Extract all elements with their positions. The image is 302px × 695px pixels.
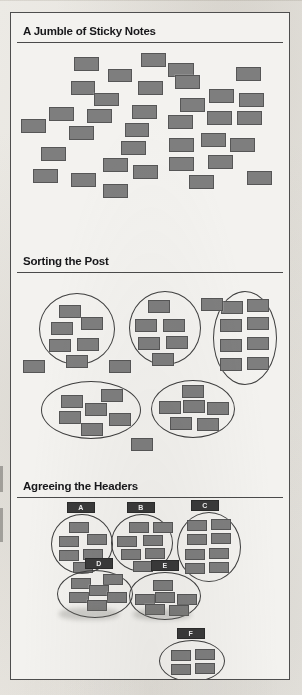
sticky-note[interactable]	[195, 663, 215, 674]
sticky-note[interactable]	[247, 337, 269, 350]
sticky-note[interactable]	[41, 147, 66, 161]
sticky-note[interactable]	[49, 339, 71, 352]
sticky-note[interactable]	[180, 98, 205, 112]
sticky-note[interactable]	[183, 400, 205, 413]
sticky-note[interactable]	[220, 339, 242, 352]
sticky-note[interactable]	[141, 53, 166, 67]
sticky-note[interactable]	[153, 522, 173, 533]
sticky-note[interactable]	[135, 319, 157, 332]
sticky-note[interactable]	[71, 81, 95, 95]
sticky-note-unsorted[interactable]	[23, 360, 45, 373]
sticky-note[interactable]	[121, 549, 141, 560]
sticky-note[interactable]	[74, 57, 99, 71]
header-tag-a[interactable]: A	[67, 502, 95, 513]
sticky-note[interactable]	[185, 549, 205, 560]
sticky-note[interactable]	[59, 305, 81, 318]
sticky-note[interactable]	[166, 336, 188, 349]
header-tag-c[interactable]: C	[191, 500, 219, 511]
sticky-note[interactable]	[33, 169, 58, 183]
sticky-note[interactable]	[169, 138, 194, 152]
sticky-note[interactable]	[145, 604, 165, 615]
sticky-note[interactable]	[175, 75, 200, 89]
sticky-note[interactable]	[132, 105, 157, 119]
sticky-note[interactable]	[169, 605, 189, 616]
sticky-note[interactable]	[169, 157, 194, 171]
sticky-note[interactable]	[121, 141, 146, 155]
sticky-note[interactable]	[89, 585, 109, 596]
sticky-note[interactable]	[59, 411, 81, 424]
sticky-note[interactable]	[117, 536, 137, 547]
sticky-note[interactable]	[177, 594, 197, 605]
sticky-note[interactable]	[197, 418, 219, 431]
sticky-note[interactable]	[239, 93, 264, 107]
sticky-note[interactable]	[152, 353, 174, 366]
sticky-note[interactable]	[71, 173, 96, 187]
sticky-note[interactable]	[87, 600, 107, 611]
header-tag-e[interactable]: E	[151, 560, 179, 571]
sticky-note[interactable]	[69, 126, 94, 140]
sticky-note[interactable]	[182, 385, 204, 398]
sticky-note[interactable]	[155, 592, 175, 603]
sticky-note[interactable]	[49, 107, 74, 121]
sticky-note[interactable]	[209, 89, 234, 103]
sticky-note[interactable]	[187, 520, 207, 531]
sticky-note[interactable]	[133, 561, 153, 572]
sticky-note[interactable]	[207, 111, 232, 125]
sticky-note[interactable]	[163, 319, 185, 332]
sticky-note[interactable]	[81, 317, 103, 330]
sticky-note[interactable]	[59, 536, 79, 547]
sticky-note-unsorted[interactable]	[109, 360, 131, 373]
sticky-note[interactable]	[138, 337, 160, 350]
sticky-note[interactable]	[61, 395, 83, 408]
sticky-note[interactable]	[87, 109, 112, 123]
sticky-note[interactable]	[87, 534, 107, 545]
sticky-note[interactable]	[108, 69, 132, 82]
sticky-note[interactable]	[21, 119, 46, 133]
sticky-note[interactable]	[143, 535, 163, 546]
sticky-note[interactable]	[211, 519, 231, 530]
sticky-note[interactable]	[51, 322, 73, 335]
sticky-note[interactable]	[201, 133, 226, 147]
sticky-note[interactable]	[103, 574, 123, 585]
sticky-note[interactable]	[247, 171, 272, 185]
sticky-note[interactable]	[236, 67, 261, 81]
sticky-note[interactable]	[138, 81, 163, 95]
sticky-note[interactable]	[171, 650, 191, 661]
sticky-note[interactable]	[94, 93, 119, 106]
sticky-note[interactable]	[220, 358, 242, 371]
sticky-note[interactable]	[247, 317, 269, 330]
sticky-note[interactable]	[207, 402, 229, 415]
sticky-note[interactable]	[153, 580, 173, 591]
sticky-note-unsorted[interactable]	[131, 438, 153, 451]
sticky-note[interactable]	[133, 165, 158, 179]
header-tag-f[interactable]: F	[177, 628, 205, 639]
sticky-note[interactable]	[247, 357, 269, 370]
sticky-note[interactable]	[208, 155, 233, 169]
sticky-note[interactable]	[109, 413, 131, 426]
sticky-note[interactable]	[189, 175, 214, 189]
sticky-note[interactable]	[59, 550, 79, 561]
sticky-note-unsorted[interactable]	[201, 298, 223, 311]
sticky-note[interactable]	[170, 417, 192, 430]
sticky-note[interactable]	[125, 123, 149, 137]
sticky-note[interactable]	[85, 403, 107, 416]
sticky-note[interactable]	[101, 389, 123, 402]
sticky-note[interactable]	[77, 338, 99, 351]
sticky-note[interactable]	[69, 592, 89, 603]
sticky-note[interactable]	[237, 111, 262, 125]
sticky-note[interactable]	[148, 300, 170, 313]
sticky-note[interactable]	[171, 664, 191, 675]
sticky-note[interactable]	[81, 423, 103, 436]
sticky-note[interactable]	[159, 401, 181, 414]
sticky-note[interactable]	[107, 592, 127, 603]
sticky-note[interactable]	[221, 301, 243, 314]
sticky-note[interactable]	[71, 578, 91, 589]
sticky-note[interactable]	[103, 158, 128, 172]
sticky-note[interactable]	[187, 534, 207, 545]
sticky-note[interactable]	[209, 562, 229, 573]
header-tag-b[interactable]: B	[127, 502, 155, 513]
sticky-note[interactable]	[211, 533, 231, 544]
sticky-note[interactable]	[185, 563, 205, 574]
sticky-note[interactable]	[168, 115, 193, 129]
header-tag-d[interactable]: D	[85, 558, 113, 569]
